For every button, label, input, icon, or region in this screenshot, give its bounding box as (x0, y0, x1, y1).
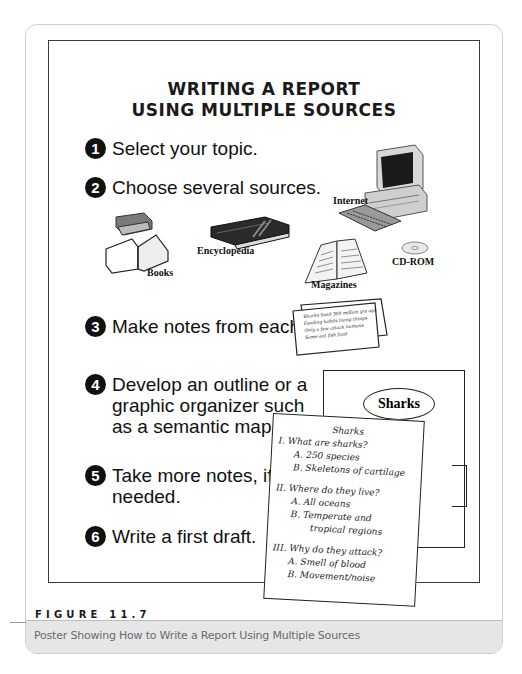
step-1: 1 Select your topic. (85, 138, 258, 159)
step-6: 6 Write a first draft. (85, 526, 256, 547)
step-text: Make notes from each. (112, 316, 305, 337)
step-text: Write a first draft. (112, 526, 256, 547)
poster-title-line-2: USING MULTIPLE SOURCES (49, 100, 479, 121)
step-text: Choose several sources. (112, 177, 321, 198)
outline-lines: I. What are sharks? A. 250 species B. Sk… (271, 434, 416, 587)
step-5: 5 Take more notes, if needed. (85, 465, 273, 507)
step-2: 2 Choose several sources. (85, 177, 321, 198)
cd-rom-icon (401, 241, 429, 255)
step-number-badge: 2 (85, 177, 106, 198)
source-label-magazines: Magazines (311, 279, 357, 290)
source-label-cd-rom: CD-ROM (392, 256, 434, 267)
caption-band: Poster Showing How to Write a Report Usi… (26, 620, 502, 653)
poster-title-line-1: WRITING A REPORT (49, 79, 479, 100)
step-text: Select your topic. (112, 138, 258, 159)
semantic-map-branch (452, 465, 467, 507)
figure-caption: Poster Showing How to Write a Report Usi… (34, 629, 360, 642)
source-label-encyclopedia: Encyclopedia (197, 245, 254, 256)
step-number-badge: 6 (85, 526, 106, 547)
poster: WRITING A REPORT USING MULTIPLE SOURCES … (48, 40, 480, 583)
step-3: 3 Make notes from each. (85, 316, 305, 337)
computer-icon (319, 141, 429, 226)
step-number-badge: 4 (85, 374, 106, 395)
books-icon (104, 213, 174, 275)
step-text: Take more notes, if needed. (112, 465, 273, 507)
poster-title: WRITING A REPORT USING MULTIPLE SOURCES (49, 79, 479, 121)
figure-rule (10, 622, 26, 623)
step-number-badge: 5 (85, 465, 106, 486)
step-number-badge: 3 (85, 316, 106, 337)
step-number-badge: 1 (85, 138, 106, 159)
figure-label: FIGURE 11.7 (35, 609, 151, 620)
outline-sheet: Sharks I. What are sharks? A. 250 specie… (263, 413, 425, 607)
source-label-internet: Internet (333, 195, 368, 206)
semantic-map-center-node: Sharks (363, 388, 435, 420)
source-label-books: Books (147, 267, 173, 278)
